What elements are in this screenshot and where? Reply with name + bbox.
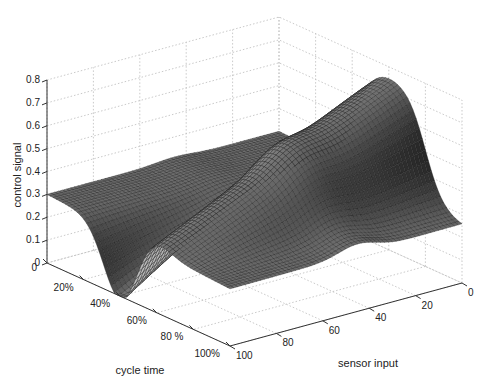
x-tick-label: 40% bbox=[90, 298, 110, 309]
z-tick-label: 0.1 bbox=[26, 234, 40, 245]
y-tick-label: 80 bbox=[282, 337, 294, 348]
y-axis-label: sensor input bbox=[338, 357, 398, 369]
z-tick-label: 0.4 bbox=[26, 166, 40, 177]
x-tick-label: 80 % bbox=[161, 331, 184, 342]
z-tick-label: 0.8 bbox=[26, 74, 40, 85]
x-tick-label: 20% bbox=[54, 282, 74, 293]
y-tick-label: 60 bbox=[329, 325, 341, 336]
z-tick-label: 0.5 bbox=[26, 143, 40, 154]
x-tick-label: 100% bbox=[194, 348, 220, 359]
z-axis-label: control signal bbox=[11, 143, 23, 208]
x-axis-label: cycle time bbox=[116, 364, 165, 376]
x-tick-label: 60% bbox=[127, 315, 147, 326]
z-tick-label: 0.6 bbox=[26, 120, 40, 131]
z-tick-label: 0.3 bbox=[26, 188, 40, 199]
z-tick-label: 0.7 bbox=[26, 97, 40, 108]
y-tick-label: 0 bbox=[468, 287, 474, 298]
z-tick-label: 0.2 bbox=[26, 211, 40, 222]
y-tick-label: 20 bbox=[422, 300, 434, 311]
y-tick-label: 100 bbox=[236, 350, 253, 361]
x-tick-label: 0 bbox=[31, 262, 37, 273]
surface-mesh bbox=[47, 77, 462, 297]
surface-plot: 00.10.20.30.40.50.60.70.8020%40%60%80 %1… bbox=[0, 0, 495, 386]
y-tick-label: 40 bbox=[375, 312, 387, 323]
